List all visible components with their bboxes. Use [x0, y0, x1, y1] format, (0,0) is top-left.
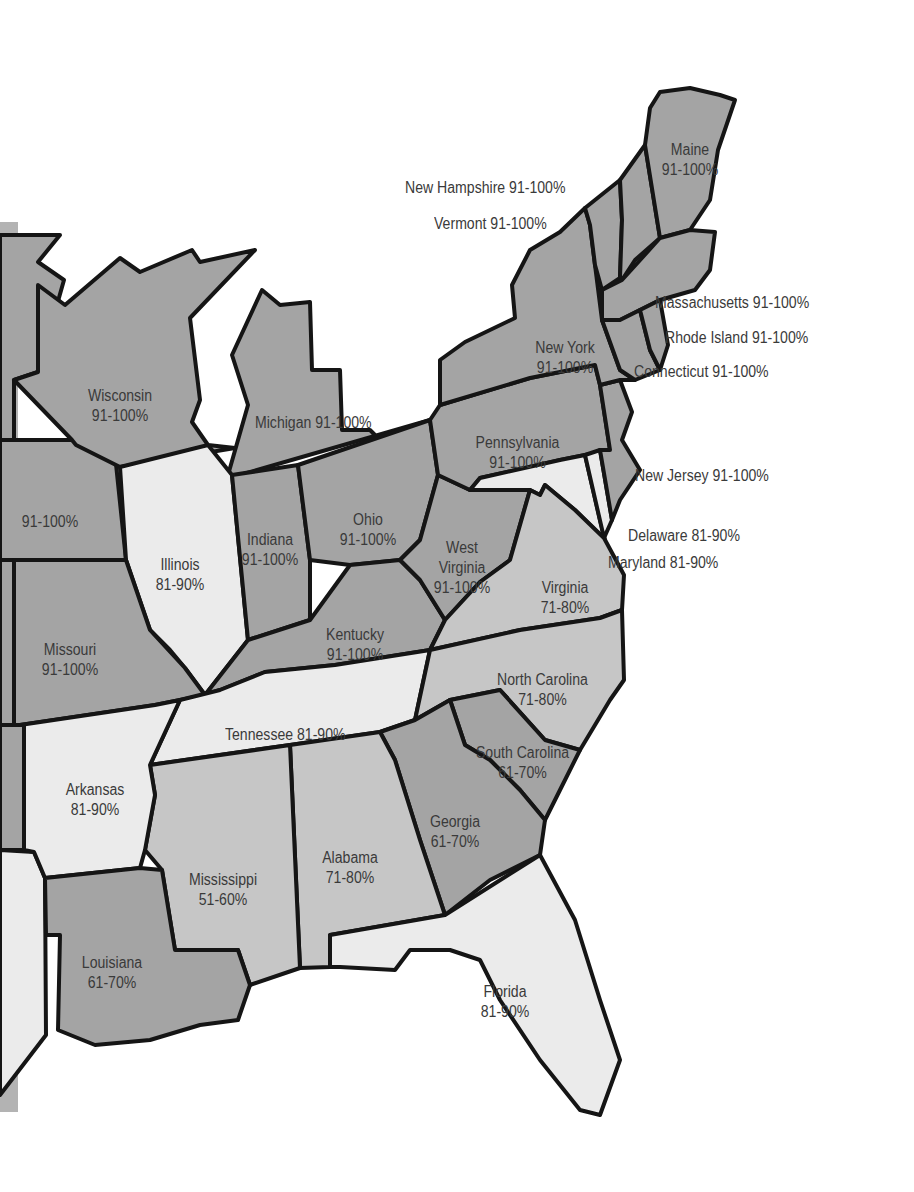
- label-mississippi: Mississippi51-60%: [175, 870, 272, 910]
- label-missouri: Missouri91-100%: [26, 640, 114, 680]
- label-kentucky: Kentucky91-100%: [311, 625, 399, 665]
- label-illinois: Illinois81-90%: [136, 555, 224, 595]
- label-pennsylvania: Pennsylvania91-100%: [463, 433, 573, 473]
- label-georgia: Georgia61-70%: [411, 812, 499, 852]
- label-massachusetts: Massachusetts 91-100%: [655, 293, 809, 313]
- state-oklahoma-partial[interactable]: [0, 725, 24, 850]
- label-arkansas: Arkansas81-90%: [51, 780, 139, 820]
- label-new-york: New York91-100%: [521, 338, 609, 378]
- label-south-carolina: South Carolina61-70%: [468, 743, 578, 783]
- label-louisiana: Louisiana61-70%: [68, 953, 156, 993]
- label-maryland: Maryland 81-90%: [608, 553, 718, 573]
- state-texas-partial[interactable]: [0, 850, 46, 1095]
- label-west-virginia: WestVirginia91-100%: [418, 538, 506, 598]
- label-delaware: Delaware 81-90%: [628, 526, 740, 546]
- state-kansas-partial[interactable]: [0, 560, 14, 725]
- label-michigan: Michigan 91-100%: [255, 413, 372, 433]
- label-alabama: Alabama71-80%: [306, 848, 394, 888]
- label-virginia: Virginia71-80%: [521, 578, 609, 618]
- label-new-hampshire: New Hampshire 91-100%: [405, 178, 565, 198]
- label-wisconsin: Wisconsin91-100%: [76, 386, 164, 426]
- label-maine: Maine91-100%: [655, 140, 725, 180]
- label-florida: Florida81-90%: [461, 982, 549, 1022]
- label-vermont: Vermont 91-100%: [434, 214, 547, 234]
- label-tennessee: Tennessee 81-90%: [225, 725, 346, 745]
- label-connecticut: Connecticut 91-100%: [634, 362, 769, 382]
- label-new-jersey: New Jersey 91-100%: [635, 466, 769, 486]
- label-rhode-island: Rhode Island 91-100%: [665, 328, 808, 348]
- label-iowa-partial: 91-100%: [6, 512, 94, 532]
- label-ohio: Ohio91-100%: [324, 510, 412, 550]
- label-indiana: Indiana91-100%: [230, 530, 309, 570]
- label-north-carolina: North Carolina71-80%: [483, 670, 602, 710]
